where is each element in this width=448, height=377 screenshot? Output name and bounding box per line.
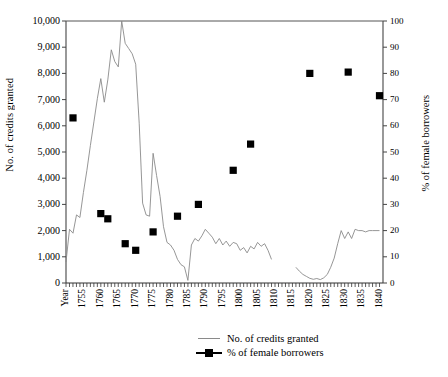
series-female-marker: [132, 247, 139, 254]
series-female-marker: [97, 210, 104, 217]
series-female-marker: [122, 240, 129, 247]
series-female-marker: [247, 141, 254, 148]
series-female-marker: [174, 213, 181, 220]
series-female-marker: [230, 167, 237, 174]
chart-legend: No. of credits granted % of female borro…: [196, 332, 324, 360]
legend-label-female: % of female borrowers: [227, 346, 324, 360]
legend-item-credits: No. of credits granted: [196, 332, 324, 346]
legend-line-key: [196, 333, 222, 345]
legend-item-female: % of female borrowers: [196, 346, 324, 360]
series-credits-line: [66, 21, 380, 280]
series-female-marker: [150, 228, 157, 235]
series-female-marker: [195, 201, 202, 208]
series-female-marker: [376, 92, 383, 99]
series-female-marker: [345, 69, 352, 76]
chart-figure: No. of credits granted % of female borro…: [0, 0, 448, 377]
plot-area: [0, 0, 448, 377]
legend-square-key: [196, 347, 222, 359]
series-female-marker: [69, 114, 76, 121]
series-female-marker: [306, 70, 313, 77]
legend-label-credits: No. of credits granted: [227, 332, 319, 346]
series-female-marker: [104, 215, 111, 222]
